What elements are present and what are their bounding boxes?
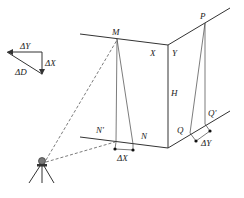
label-x: X — [149, 48, 156, 58]
label-q-prime: Q' — [208, 108, 217, 118]
top-right-edge — [168, 8, 230, 45]
label-n: N — [140, 131, 148, 141]
label-delta-y: ΔY — [19, 41, 31, 51]
label-m: M — [111, 27, 120, 37]
m-to-n-prime — [116, 39, 117, 142]
sight-lines — [46, 40, 117, 162]
plumb-lines-m — [113, 39, 134, 152]
label-p: P — [199, 11, 206, 21]
top-left-edge — [80, 34, 168, 45]
label-delta-x: ΔX — [44, 58, 56, 68]
label-delta-d: ΔD — [14, 67, 27, 77]
m-to-n — [117, 39, 133, 144]
label-n-prime: N' — [95, 125, 105, 135]
label-h: H — [170, 88, 178, 98]
survey-diagram: ΔY ΔX ΔD — [0, 0, 244, 198]
sight-to-n-prime — [46, 142, 115, 162]
total-station-icon — [29, 158, 54, 184]
plumb-lines-p — [190, 23, 212, 143]
label-delta-y-bottom: ΔY — [200, 138, 212, 148]
delta-x-dimension — [115, 149, 133, 150]
sight-to-m — [46, 40, 117, 160]
label-q: Q — [177, 125, 184, 135]
legend-triangle: ΔY ΔX ΔD — [7, 41, 56, 77]
bottom-left-edge — [80, 137, 168, 148]
label-delta-x-bottom: ΔX — [116, 153, 128, 163]
p-to-q — [190, 23, 205, 133]
label-y: Y — [172, 48, 178, 58]
